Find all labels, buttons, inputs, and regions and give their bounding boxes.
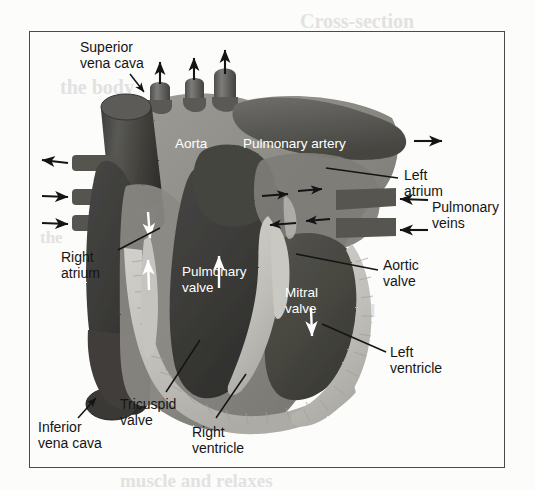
page-background: Cross-sectionthe bodychambersthebloodmus…	[0, 0, 535, 490]
figure-frame-border	[29, 31, 505, 468]
